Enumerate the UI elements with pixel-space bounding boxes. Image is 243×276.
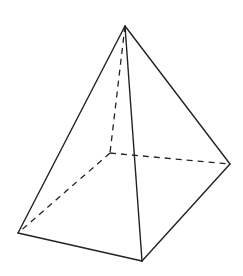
- edge-apex-front: [125, 26, 142, 261]
- hidden-edge-hidden-left: [18, 153, 110, 233]
- hidden-edges: [18, 26, 230, 233]
- edge-left-front: [18, 233, 142, 261]
- edge-apex-right: [125, 26, 230, 164]
- hidden-edge-hidden-right: [110, 153, 230, 164]
- edge-apex-left: [18, 26, 125, 233]
- edge-front-right: [142, 164, 230, 261]
- visible-edges: [18, 26, 230, 261]
- hidden-edge-apex-hidden: [110, 26, 125, 153]
- square-pyramid-diagram: [0, 0, 243, 276]
